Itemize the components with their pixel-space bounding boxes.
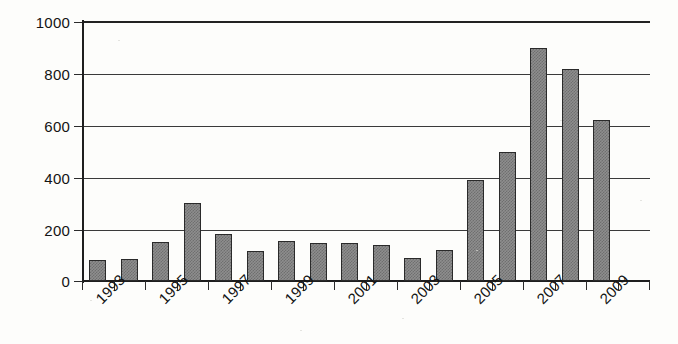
x-axis-tick (82, 281, 83, 290)
bar-1993 (89, 260, 106, 281)
bar-2007 (530, 48, 547, 281)
y-axis-label-0: 0 (61, 273, 70, 290)
plot-area: 1000 800 600 400 200 0 19931995199719992… (0, 0, 678, 344)
bar-2009 (593, 120, 610, 281)
bar-2008 (562, 69, 579, 281)
scan-artifact (402, 318, 404, 319)
x-axis-tick (208, 281, 209, 290)
x-axis-tick (334, 281, 335, 290)
y-axis-label-600: 600 (44, 118, 70, 135)
x-axis-tick (523, 281, 524, 290)
scan-artifact (300, 330, 302, 331)
bar-2006 (499, 152, 516, 281)
x-axis-tick (586, 281, 587, 290)
x-axis-tick (397, 281, 398, 290)
scan-artifact (118, 40, 120, 41)
x-axis-tick (145, 281, 146, 290)
bar-series (82, 0, 650, 282)
x-axis-tick (271, 281, 272, 290)
bar-1997 (215, 234, 232, 281)
scan-artifact (640, 200, 642, 201)
scan-artifact (476, 250, 478, 251)
bar-1998 (247, 251, 264, 281)
bar-2001 (341, 243, 358, 281)
x-axis-tick (460, 281, 461, 290)
y-axis-label-400: 400 (44, 170, 70, 187)
bar-2005 (467, 180, 484, 281)
bar-1995 (152, 242, 169, 281)
scan-artifact (90, 300, 92, 301)
x-axis-tick (649, 281, 650, 290)
bar-2002 (373, 245, 390, 281)
y-axis-label-800: 800 (44, 66, 70, 83)
bar-2000 (310, 243, 327, 281)
bar-1999 (278, 241, 295, 281)
chart-figure: 1000 800 600 400 200 0 19931995199719992… (0, 0, 678, 344)
bar-1996 (184, 203, 201, 281)
bar-2003 (404, 258, 421, 281)
y-axis-label-1000: 1000 (36, 14, 70, 31)
scan-artifact (560, 120, 562, 121)
y-axis-label-200: 200 (44, 222, 70, 239)
bar-2004 (436, 250, 453, 281)
